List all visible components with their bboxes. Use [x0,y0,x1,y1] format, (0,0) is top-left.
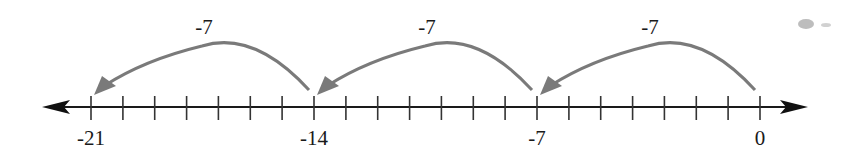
smudge-artifact [798,19,831,29]
arc-arrowhead-icon [317,76,339,95]
tick-label-neg14: -14 [300,126,328,150]
arc-arrowhead-icon [94,76,116,95]
jump-label: -7 [418,15,436,39]
jump-arc-neg14-to-neg21: -7 [94,15,309,95]
number-line-diagram: -21 -14 -7 0 -7 -7 -7 [0,0,849,162]
jump-arc-0-to-neg7: -7 [540,15,755,95]
tick-label-neg21: -21 [77,126,105,150]
jump-arc-neg7-to-neg14: -7 [317,15,532,95]
jump-label: -7 [641,15,659,39]
tick-label-neg7: -7 [528,126,546,150]
tick-label-0: 0 [755,126,766,150]
jump-label: -7 [195,15,213,39]
arc-arrowhead-icon [540,76,562,95]
